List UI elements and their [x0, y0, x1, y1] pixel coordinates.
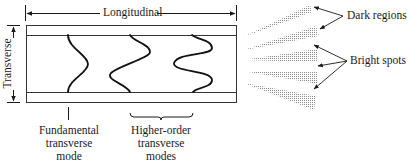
beam-dark-2 — [244, 26, 319, 50]
longitudinal-label: Longitudinal — [103, 6, 162, 19]
beam-bright-3 — [244, 83, 316, 110]
second-order-mode-curve — [174, 35, 212, 92]
output-beams — [243, 5, 319, 110]
first-order-mode-curve — [110, 35, 150, 92]
callout-arrows — [314, 7, 347, 89]
beam-bright-1 — [243, 49, 318, 62]
fundamental-mode-curve — [68, 35, 88, 92]
bright-spots-label: Bright spots — [350, 54, 406, 67]
higher-order-modes-label: Higher-order transverse modes — [121, 124, 201, 163]
beam-bright-2 — [243, 71, 318, 84]
fundamental-mode-label: Fundamental transverse mode — [29, 124, 109, 163]
transverse-label: Transverse — [1, 38, 14, 88]
dark-regions-label: Dark regions — [347, 9, 407, 22]
higher-order-brace — [130, 113, 193, 120]
